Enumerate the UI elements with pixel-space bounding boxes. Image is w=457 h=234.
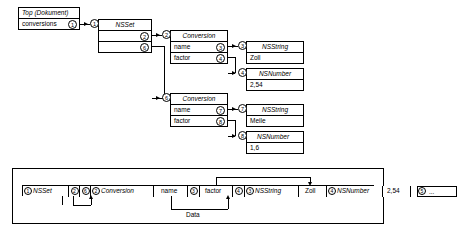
conversion-a-field-name-label: name	[174, 42, 190, 52]
nsnumber-a-class-title: NSNumber	[247, 69, 303, 80]
nsstring-b-class-title: NSString	[247, 105, 303, 116]
stream-ref2-v-down	[73, 196, 74, 205]
object-tag-8-nsnumber: 8	[238, 131, 247, 140]
edge-nsset-to-conversion-b-v	[164, 46, 165, 98]
object-tag-6-conversion: 6	[162, 93, 171, 102]
arrowhead-top-to-nsset	[84, 22, 88, 26]
stream-ref2-h	[73, 205, 91, 206]
stream-ref3-h	[171, 209, 228, 210]
object-box-nsstring-a: NSString Zoll	[246, 41, 304, 64]
stream-tag-4-class: 4	[328, 187, 336, 195]
stream-cell-class-nsnumber-text: NSNumber	[337, 186, 369, 196]
object-box-nsnumber-a: NSNumber 2,54	[246, 68, 304, 91]
edge-nsset-to-conversion-b-h1	[152, 46, 164, 47]
conversion-a-field-name: name 3	[171, 42, 227, 53]
stream-cell-class-nsstring-text: NSString	[255, 186, 281, 196]
nsnumber-b-value: 1,6	[250, 143, 259, 153]
nsstring-a-value: Zoll	[250, 53, 260, 63]
stream-ref3-v-down	[171, 196, 172, 209]
stream-ref4-h	[216, 177, 310, 178]
stream-tag-3-ref: 3	[190, 187, 198, 195]
stream-ref6-v-down	[62, 196, 63, 205]
arrowhead-conversion-b-factor	[232, 134, 236, 138]
top-document-field-label: conversions	[22, 19, 57, 29]
object-tag-4-nsnumber: 4	[238, 68, 247, 77]
stream-tag-6-ref: 6	[82, 187, 90, 195]
nsnumber-b-value-row: 1,6	[247, 143, 303, 154]
stream-cell-value-zoll: Zoll	[299, 186, 327, 197]
stream-tag-3-class: 3	[246, 187, 254, 195]
conversion-a-field-factor: factor 4	[171, 53, 227, 64]
ref-tag-3-source: 3	[216, 43, 225, 52]
ref-tag-1-source: 1	[68, 20, 77, 29]
stream-tag-1: 1	[24, 187, 32, 195]
nsset-element-1: 6	[99, 42, 151, 53]
stream-cell-class-nsset-text: NSSet	[33, 186, 52, 196]
conversion-b-field-name: name 7	[171, 105, 227, 116]
edge-conversion-b-factor-h1	[228, 120, 235, 121]
stream-ref4-v-up	[216, 177, 217, 185]
stream-ref2-arrowhead	[89, 195, 93, 199]
stream-cell-value-254-text: 2,54	[387, 186, 400, 196]
conversion-b-field-name-label: name	[174, 105, 190, 115]
top-document-field-conversions: conversions 1	[19, 19, 79, 30]
object-box-nsnumber-b: NSNumber 1,6	[246, 131, 304, 154]
nsset-element-0: 2	[99, 31, 151, 42]
conversion-b-class-title: Conversion	[171, 94, 227, 105]
edge-conversion-a-factor-h1	[228, 57, 235, 58]
stream-cell-continuation-text: ...	[429, 187, 434, 197]
stream-ref4-arrowhead	[308, 182, 312, 186]
nsstring-b-value: Meile	[250, 116, 266, 126]
stream-cell-value-zoll-text: Zoll	[305, 186, 315, 196]
ref-tag-4-source: 4	[216, 54, 225, 63]
stream-ref3-arrowhead	[226, 195, 230, 199]
stream-tag-4-ref: 4	[235, 187, 243, 195]
arrowhead-conversion-b-name	[232, 107, 236, 111]
data-stream-byte-row: NSSet 1 2 6 Conversion 2 name 3 factor	[22, 185, 374, 196]
arrowhead-conversion-a-name	[232, 44, 236, 48]
stream-cell-class-conversion: Conversion	[91, 186, 154, 197]
top-document-header: Top (Dokument)	[19, 8, 79, 19]
object-box-nsset: NSSet 2 6	[98, 19, 152, 53]
conversion-a-field-factor-label: factor	[174, 53, 190, 63]
nsnumber-b-class-title: NSNumber	[247, 132, 303, 143]
stream-cell-key-factor-text: factor	[205, 186, 221, 196]
nsstring-b-value-row: Meile	[247, 116, 303, 127]
data-stream-label: Data	[186, 211, 200, 218]
arrowhead-nsset-to-conversion-a	[156, 33, 160, 37]
ref-tag-2-source: 2	[140, 32, 149, 41]
nsnumber-a-value: 2,54	[250, 80, 263, 90]
nsstring-a-value-row: Zoll	[247, 53, 303, 64]
stream-ref3-v-up	[228, 198, 229, 209]
object-tag-2-conversion: 2	[162, 30, 171, 39]
ref-tag-6-source: 6	[140, 43, 149, 52]
object-tag-7-nsstring: 7	[238, 104, 247, 113]
arrowhead-nsset-to-conversion-b	[156, 96, 160, 100]
nsset-class-title: NSSet	[99, 20, 151, 31]
arrowhead-conversion-a-factor	[232, 71, 236, 75]
stream-cell-key-name-text: name	[161, 186, 177, 196]
ref-tag-8-source: 8	[216, 117, 225, 126]
object-box-nsstring-b: NSString Meile	[246, 104, 304, 127]
stream-ref2-v-up	[91, 198, 92, 205]
ref-tag-7-source: 7	[216, 106, 225, 115]
conversion-b-field-factor-label: factor	[174, 116, 190, 126]
conversion-a-class-title: Conversion	[171, 31, 227, 42]
nsstring-a-class-title: NSString	[247, 42, 303, 53]
object-box-top-document: Top (Dokument) conversions 1	[18, 7, 80, 30]
stream-cell-class-conversion-text: Conversion	[101, 186, 134, 196]
nsnumber-a-value-row: 2,54	[247, 80, 303, 91]
stream-tag-5: 5	[418, 187, 426, 195]
top-document-header-label: Top (Dokument)	[22, 8, 68, 18]
stream-cell-value-254: 2,54	[383, 186, 411, 197]
object-box-conversion-a: Conversion name 3 factor 4	[170, 30, 228, 64]
object-tag-3-nsstring: 3	[238, 41, 247, 50]
object-tag-1-nsset: 1	[90, 19, 99, 28]
stream-tag-2-class: 2	[92, 187, 100, 195]
conversion-b-field-factor: factor 8	[171, 116, 227, 127]
object-box-conversion-b: Conversion name 7 factor 8	[170, 93, 228, 127]
stream-tag-2-ref: 2	[71, 187, 79, 195]
